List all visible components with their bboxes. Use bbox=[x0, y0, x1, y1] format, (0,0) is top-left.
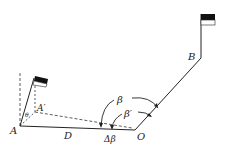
arc-beta bbox=[132, 98, 158, 108]
label-D: D bbox=[63, 130, 72, 141]
label-beta: β bbox=[116, 94, 123, 105]
label-O: O bbox=[137, 131, 145, 142]
label-A-prime: A′ bbox=[36, 103, 46, 113]
label-beta-prime: β′ bbox=[123, 108, 133, 119]
arrowhead-beta-left bbox=[99, 123, 103, 128]
flag-icon-at-A bbox=[20, 76, 48, 126]
label-B: B bbox=[187, 51, 195, 62]
dashed-line-Aprime-O bbox=[35, 112, 132, 128]
line-A-O bbox=[20, 126, 135, 130]
arc-beta-left bbox=[101, 100, 114, 126]
label-theta: θ bbox=[25, 111, 29, 118]
label-A: A bbox=[9, 125, 17, 136]
flag-icon-at-B bbox=[201, 14, 215, 58]
label-delta-beta: Δβ bbox=[103, 134, 116, 144]
line-O-B bbox=[135, 58, 201, 130]
survey-angle-diagram: A A′ θ D Δβ O B β β′ bbox=[0, 0, 228, 158]
